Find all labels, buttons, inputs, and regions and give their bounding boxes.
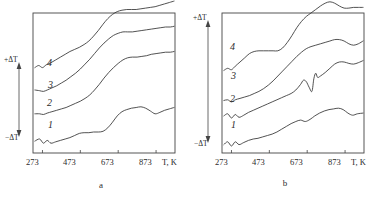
curve-label-3-b: 3 [231, 70, 236, 81]
y-axis-bottom-label-b: −ΔT [194, 139, 208, 148]
curve-label-2-a: 2 [47, 97, 52, 108]
panel-caption-b: b [278, 178, 292, 188]
x-tick-label-273-a: 273 [26, 157, 39, 167]
dta-curve-3 [224, 39, 363, 101]
x-tick-label-473-b: 473 [252, 157, 265, 167]
y-axis-top-label-a: +ΔT [4, 55, 18, 64]
panel-b-plot [189, 0, 378, 202]
curve-label-1-b: 1 [231, 119, 236, 130]
panel-a: +ΔT −ΔT 273 473 673 873 T, K 4 3 2 1 a [0, 0, 189, 202]
y-axis-arrow-b [206, 20, 211, 143]
x-tick-label-673-b: 673 [290, 157, 303, 167]
curve-label-3-a: 3 [48, 79, 53, 90]
y-axis-bottom-label-a: −ΔT [5, 133, 19, 142]
panel-b: +ΔT −ΔT 273 473 673 873 T, K 4 3 2 1 b [189, 0, 378, 202]
curve-label-4-b: 4 [230, 41, 235, 52]
dta-figure: +ΔT −ΔT 273 473 673 873 T, K 4 3 2 1 a +… [0, 0, 378, 202]
panel-caption-a: a [94, 180, 108, 190]
dta-curve-4 [35, 1, 174, 68]
x-tick-label-273-b: 273 [215, 157, 228, 167]
plot-frame-a [33, 13, 175, 153]
dta-curve-2 [35, 52, 174, 115]
x-tick-label-873-a: 873 [139, 157, 152, 167]
y-axis-arrow-a [17, 62, 22, 137]
x-tick-label-673-a: 673 [101, 157, 114, 167]
dta-curve-1 [35, 107, 174, 143]
y-axis-top-label-b: +ΔT [193, 13, 207, 22]
panel-a-plot [0, 0, 189, 202]
curve-group-b [224, 2, 363, 146]
dta-curve-3 [35, 26, 174, 91]
curve-group-a [35, 1, 174, 143]
curve-label-2-b: 2 [230, 93, 235, 104]
x-tick-label-473-a: 473 [63, 157, 76, 167]
x-axis-name-b: T, K [351, 157, 366, 167]
dta-curve-1 [224, 108, 363, 146]
x-axis-name-a: T, K [162, 157, 177, 167]
curve-label-1-a: 1 [48, 119, 53, 130]
x-tick-label-873-b: 873 [328, 157, 341, 167]
curve-label-4-a: 4 [47, 57, 52, 68]
